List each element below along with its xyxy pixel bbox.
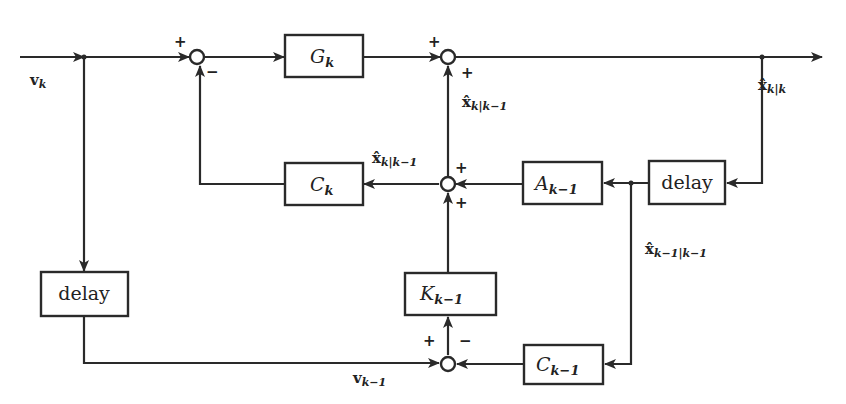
block-G: Gk bbox=[285, 35, 363, 77]
block-A-sub: k−1 bbox=[549, 182, 578, 197]
block-C-prev: Ck−1 bbox=[524, 345, 603, 384]
signal-delayed-input-label: vk−1 bbox=[352, 369, 386, 389]
summing-junction-4 bbox=[441, 357, 455, 371]
block-A-label: A bbox=[533, 172, 549, 194]
sign-sum3-bottom: + bbox=[455, 194, 468, 212]
signal-predicted-up-label: x̂k|k−1 bbox=[462, 93, 507, 113]
sign-sum4-right: − bbox=[459, 332, 472, 350]
sign-sum2-bottom: + bbox=[461, 64, 474, 82]
wire-prev-to-Cprev bbox=[605, 183, 631, 364]
block-C: Ck bbox=[285, 163, 363, 205]
signal-previous-estimate-label: x̂k−1|k−1 bbox=[645, 240, 707, 260]
wires bbox=[20, 55, 822, 365]
summing-junction-2 bbox=[441, 50, 455, 64]
block-G-label: G bbox=[310, 45, 325, 67]
sign-sum1-bottom: − bbox=[206, 63, 219, 81]
sign-sum2-top: + bbox=[428, 33, 441, 51]
block-delay-left: delay bbox=[41, 272, 128, 316]
block-K: Kk−1 bbox=[405, 273, 496, 315]
wire-output-to-delay bbox=[727, 57, 762, 183]
summing-junction-3 bbox=[441, 177, 455, 191]
block-C-prev-sub: k−1 bbox=[551, 363, 580, 378]
block-C-label: C bbox=[310, 173, 325, 195]
signal-output-label: x̂k|k bbox=[758, 76, 787, 96]
block-C-sub: k bbox=[325, 183, 334, 198]
block-K-sub: k−1 bbox=[434, 292, 463, 307]
block-delay-right: delay bbox=[649, 161, 725, 204]
kalman-filter-block-diagram: Gk Ck Ak−1 delay delay Kk−1 Ck−1 vk x̂k|… bbox=[0, 0, 846, 404]
block-G-sub: k bbox=[325, 55, 334, 70]
signal-predicted-left-label: x̂k|k−1 bbox=[372, 149, 417, 169]
summing-junction-1 bbox=[190, 50, 204, 64]
sign-sum4-left: + bbox=[423, 332, 436, 350]
block-C-prev-label: C bbox=[536, 353, 551, 375]
sign-sum1-top: + bbox=[174, 33, 187, 51]
wire-C-to-sum1 bbox=[200, 66, 285, 184]
wire-delay-to-sum4 bbox=[84, 316, 439, 363]
sign-sum3-top: + bbox=[455, 159, 468, 177]
signal-input-label: vk bbox=[29, 71, 47, 91]
block-A: Ak−1 bbox=[523, 162, 602, 204]
block-delay-right-label: delay bbox=[661, 171, 713, 193]
block-delay-left-label: delay bbox=[58, 282, 110, 304]
